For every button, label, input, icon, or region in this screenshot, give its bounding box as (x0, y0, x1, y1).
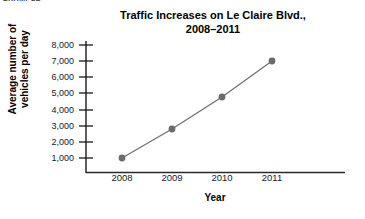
x-tick-label: 2011 (247, 173, 297, 183)
x-tick-label: 2009 (147, 173, 197, 183)
data-point-2009 (169, 126, 176, 133)
data-point-2008 (119, 155, 126, 162)
x-axis-title: Year (85, 192, 345, 203)
data-line-series-1 (122, 61, 272, 158)
x-tick-label: 2010 (197, 173, 247, 183)
data-point-2010 (219, 94, 226, 101)
x-axis-tick-labels: 2008 2009 2010 2011 (0, 173, 365, 187)
data-point-2011 (269, 58, 276, 65)
x-tick-label: 2008 (97, 173, 147, 183)
